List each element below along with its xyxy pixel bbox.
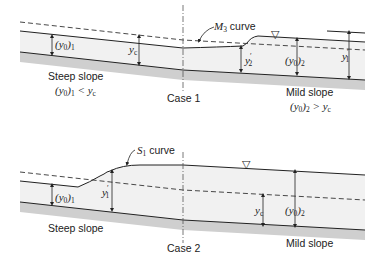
- case1-mild-slope-label: Mild slope: [286, 86, 333, 98]
- m3-curve-label: M3 curve: [213, 20, 256, 34]
- case1-left-condition: (y0)1 < yc: [55, 84, 97, 98]
- s1-curve-label: S1 curve: [137, 144, 175, 158]
- case1-upstream-depth-line: [327, 31, 365, 33]
- case2-mild-slope-label: Mild slope: [286, 237, 333, 249]
- flow-profiles-diagram: ▽ (y0)1 yc M3 curve y′2 (y0)2 y′1 Steep …: [0, 0, 388, 264]
- case1-title: Case 1: [167, 92, 200, 104]
- case2-steep-slope-label: Steep slope: [48, 222, 104, 234]
- m3-leader-line: [199, 27, 214, 41]
- case2-title: Case 2: [167, 242, 200, 254]
- case2-water-surface-symbol: ▽: [242, 158, 251, 170]
- case1-water-surface-symbol: ▽: [271, 28, 280, 40]
- case1-label-y2p: y′2: [244, 52, 253, 68]
- s1-leader-line: [127, 150, 135, 164]
- case1-right-condition: (y0)2 > yc: [290, 100, 332, 114]
- case-1-diagram: ▽ (y0)1 yc M3 curve y′2 (y0)2 y′1 Steep …: [20, 5, 365, 114]
- case2-label-y1p: y′1: [101, 184, 110, 200]
- case1-label-y1p: y′1: [341, 48, 350, 64]
- case-2-diagram: ▽ S1 curve (y0)1 y′1 yc (y0)2 Steep slop…: [20, 144, 365, 254]
- case1-steep-slope-label: Steep slope: [48, 70, 104, 82]
